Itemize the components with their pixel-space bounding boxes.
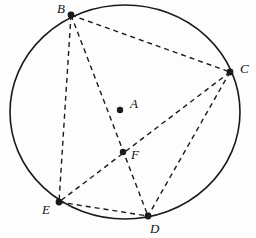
geometry-canvas: [0, 0, 256, 238]
chord-b-e: [59, 15, 71, 202]
circle-group: [10, 5, 240, 219]
point-a-dot: [117, 107, 123, 113]
circumscribed-circle: [10, 5, 240, 219]
geometry-figure: ABCDEF: [0, 0, 256, 238]
point-f-dot: [120, 149, 126, 155]
point-c-dot: [227, 69, 234, 76]
point-d-dot: [145, 213, 152, 220]
chords-group: [59, 15, 230, 216]
point-a-label: A: [130, 97, 138, 110]
chord-c-e: [59, 72, 230, 202]
point-d-label: D: [150, 222, 159, 235]
point-f-label: F: [131, 148, 139, 161]
chord-c-d: [148, 72, 230, 216]
point-c-label: C: [240, 62, 249, 75]
point-b-label: B: [57, 2, 65, 15]
point-e-dot: [56, 199, 63, 206]
point-e-label: E: [42, 203, 50, 216]
chord-b-d: [71, 15, 148, 216]
point-b-dot: [68, 12, 75, 19]
chord-e-d: [59, 202, 148, 216]
chord-b-c: [71, 15, 230, 72]
